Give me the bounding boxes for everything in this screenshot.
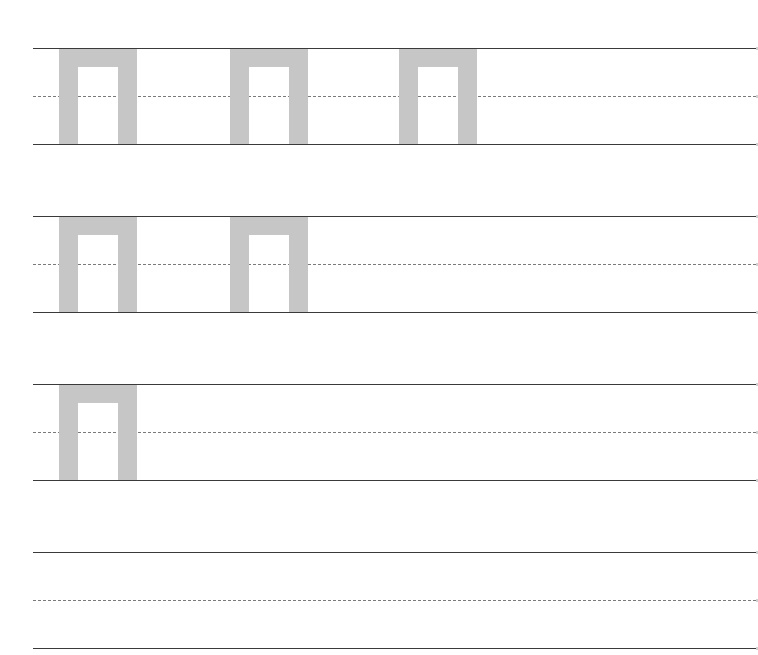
glyph-stroke-right bbox=[458, 49, 477, 144]
practice-row bbox=[33, 552, 756, 649]
top-ruling-line bbox=[33, 216, 756, 217]
midline-dashed-guide bbox=[33, 600, 756, 601]
top-ruling-line bbox=[33, 552, 756, 553]
top-ruling-line bbox=[33, 384, 756, 385]
glyph-stroke-right bbox=[118, 217, 137, 312]
baseline-ruling-line bbox=[33, 144, 756, 145]
glyph-stroke-right bbox=[118, 49, 137, 144]
practice-row: пп bbox=[33, 216, 756, 313]
glyph-stroke-left bbox=[59, 217, 78, 312]
midline-dashed-guide bbox=[33, 96, 756, 97]
top-ruling-line bbox=[33, 48, 756, 49]
glyph-stroke-right bbox=[289, 217, 308, 312]
midline-dashed-guide bbox=[33, 432, 756, 433]
trace-glyph: п bbox=[59, 385, 137, 480]
glyph-stroke-left bbox=[59, 49, 78, 144]
glyph-stroke-left bbox=[399, 49, 418, 144]
trace-glyph: п bbox=[230, 49, 308, 144]
trace-glyph: п bbox=[230, 217, 308, 312]
trace-glyph: п bbox=[59, 217, 137, 312]
baseline-ruling-line bbox=[33, 648, 756, 649]
trace-glyph: п bbox=[399, 49, 477, 144]
baseline-ruling-line bbox=[33, 312, 756, 313]
glyph-stroke-right bbox=[118, 385, 137, 480]
baseline-ruling-line bbox=[33, 480, 756, 481]
glyph-stroke-left bbox=[230, 217, 249, 312]
trace-glyph: п bbox=[59, 49, 137, 144]
practice-row: п bbox=[33, 384, 756, 481]
glyph-stroke-right bbox=[289, 49, 308, 144]
glyph-stroke-left bbox=[230, 49, 249, 144]
practice-row: ппп bbox=[33, 48, 756, 145]
midline-dashed-guide bbox=[33, 264, 756, 265]
glyph-stroke-left bbox=[59, 385, 78, 480]
